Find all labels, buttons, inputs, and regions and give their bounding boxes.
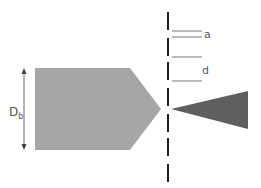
diffraction-cone <box>171 91 248 129</box>
diagram-canvas: a d Db <box>0 0 261 188</box>
diameter-arrow <box>22 68 27 150</box>
label-a: a <box>204 28 211 41</box>
beam-body <box>35 68 161 150</box>
label-d: d <box>202 64 209 77</box>
dimension-lines <box>172 31 202 81</box>
label-diameter: Db <box>9 105 23 121</box>
